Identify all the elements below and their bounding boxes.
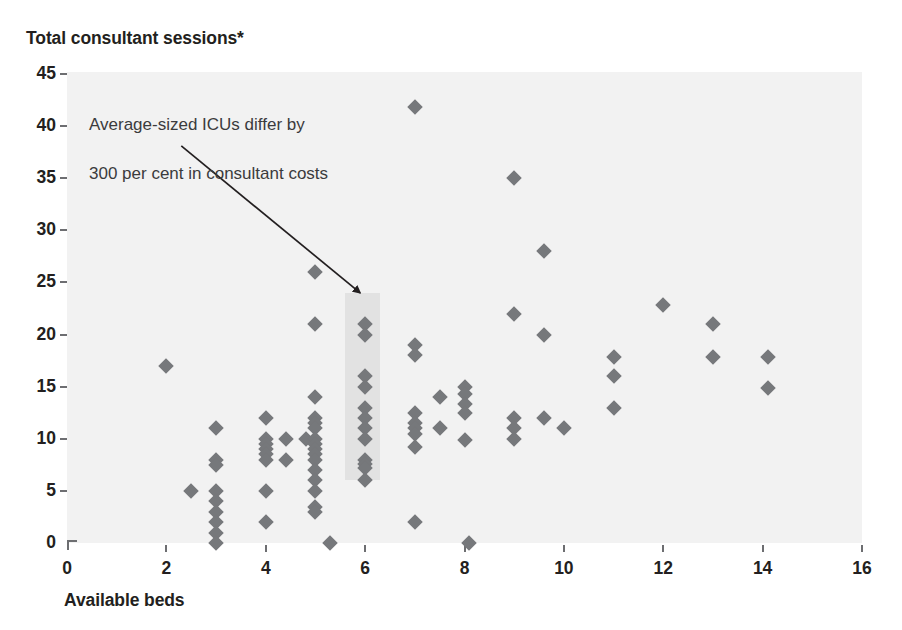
x-tick-label: 6	[345, 560, 385, 578]
x-tick-label: 8	[445, 560, 485, 578]
y-tick-mark	[60, 281, 67, 283]
x-tick-label: 16	[842, 560, 882, 578]
x-axis-title: Available beds	[64, 590, 185, 611]
y-tick-label: 15	[12, 378, 56, 396]
x-tick-mark	[662, 545, 664, 552]
y-tick-label: 5	[12, 482, 56, 500]
y-tick-mark	[60, 73, 67, 75]
x-tick-mark	[364, 545, 366, 552]
y-tick-mark	[60, 490, 67, 492]
origin-corner-mark	[67, 540, 77, 550]
y-tick-mark	[60, 177, 67, 179]
x-tick-label: 12	[643, 560, 683, 578]
y-tick-label: 45	[12, 65, 56, 83]
x-tick-mark	[762, 545, 764, 552]
y-tick-mark	[60, 386, 67, 388]
x-tick-label: 10	[544, 560, 584, 578]
y-tick-label: 25	[12, 273, 56, 291]
y-tick-label: 0	[12, 534, 56, 552]
x-tick-mark	[861, 545, 863, 552]
y-tick-label: 20	[12, 326, 56, 344]
x-tick-mark	[165, 545, 167, 552]
annotation-text: Average-sized ICUs differ by 300 per cen…	[89, 88, 328, 211]
y-axis-title: Total consultant sessions*	[26, 28, 244, 49]
y-tick-label: 35	[12, 169, 56, 187]
scatter-chart: Total consultant sessions* 0510152025303…	[0, 0, 902, 630]
x-tick-label: 4	[246, 560, 286, 578]
annotation-line-1: Average-sized ICUs differ by	[89, 113, 328, 138]
annotation-line-2: 300 per cent in consultant costs	[89, 162, 328, 187]
x-tick-label: 0	[47, 560, 87, 578]
y-tick-label: 30	[12, 221, 56, 239]
x-tick-mark	[563, 545, 565, 552]
x-tick-mark	[265, 545, 267, 552]
y-tick-label: 10	[12, 430, 56, 448]
y-tick-mark	[60, 334, 67, 336]
x-tick-label: 2	[146, 560, 186, 578]
y-tick-mark	[60, 229, 67, 231]
y-tick-label: 40	[12, 117, 56, 135]
x-tick-label: 14	[743, 560, 783, 578]
y-tick-mark	[60, 125, 67, 127]
y-tick-mark	[60, 438, 67, 440]
